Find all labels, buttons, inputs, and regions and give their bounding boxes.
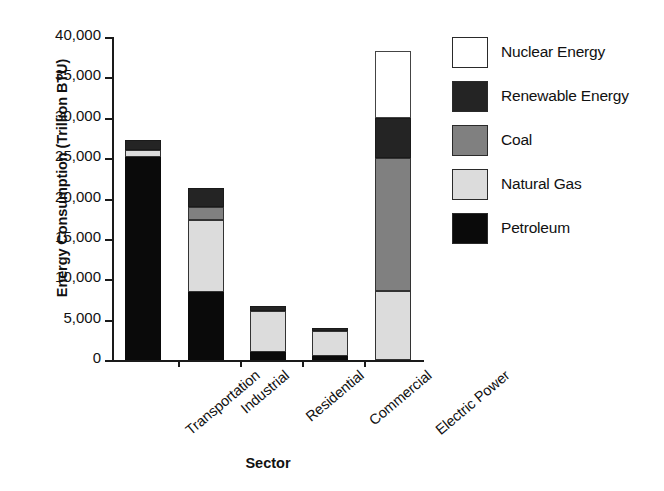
y-tick-label: 40,000 <box>21 26 101 43</box>
bar-residential[interactable] <box>250 37 286 360</box>
x-tick-mark <box>240 360 242 367</box>
bar-segment-petroleum[interactable] <box>250 352 286 360</box>
y-tick-label: 25,000 <box>21 147 101 164</box>
y-tick-mark <box>105 360 112 362</box>
bar-segment-natural-gas[interactable] <box>375 291 411 360</box>
y-tick-label: 0 <box>21 349 101 366</box>
x-axis-line <box>112 360 424 362</box>
bar-segment-natural-gas[interactable] <box>250 311 286 352</box>
bar-industrial[interactable] <box>188 37 224 360</box>
bar-segment-coal[interactable] <box>188 207 224 220</box>
y-tick-label: 30,000 <box>21 107 101 124</box>
bar-segment-petroleum[interactable] <box>188 292 224 360</box>
y-tick-label: 10,000 <box>21 268 101 285</box>
legend-label: Nuclear Energy <box>501 43 605 61</box>
y-tick-label: 5,000 <box>21 309 101 326</box>
y-tick-mark <box>105 279 112 281</box>
bar-segment-renewable-energy[interactable] <box>312 328 348 331</box>
x-label-residential: Residential <box>303 367 367 425</box>
bar-segment-renewable-energy[interactable] <box>375 118 411 158</box>
energy-consumption-chart: Energy Consumption (Trillion BTU) 0 5,00… <box>0 0 664 491</box>
y-tick-label: 35,000 <box>21 66 101 83</box>
bar-segment-natural-gas[interactable] <box>125 150 161 156</box>
bar-segment-natural-gas[interactable] <box>188 220 224 293</box>
legend-label: Coal <box>501 131 532 149</box>
legend-label: Petroleum <box>501 219 570 237</box>
x-label-electric-power: Electric Power <box>432 367 512 438</box>
legend-item-coal[interactable]: Coal <box>452 118 657 162</box>
legend-item-petroleum[interactable]: Petroleum <box>452 206 657 250</box>
x-tick-mark <box>302 360 304 367</box>
bar-segment-petroleum[interactable] <box>312 356 348 360</box>
legend-item-natural-gas[interactable]: Natural Gas <box>452 162 657 206</box>
y-tick-mark <box>105 158 112 160</box>
bar-segment-coal[interactable] <box>375 158 411 291</box>
legend-item-nuclear-energy[interactable]: Nuclear Energy <box>452 30 657 74</box>
legend-label: Natural Gas <box>501 175 582 193</box>
y-tick-mark <box>105 239 112 241</box>
x-tick-mark <box>178 360 180 367</box>
legend-swatch-icon <box>452 125 488 156</box>
bar-commercial[interactable] <box>312 37 348 360</box>
y-tick-label: 20,000 <box>21 188 101 205</box>
x-axis-title: Sector <box>112 455 424 471</box>
bar-segment-petroleum[interactable] <box>125 157 161 360</box>
bar-segment-renewable-energy[interactable] <box>125 140 161 150</box>
y-tick-mark <box>105 37 112 39</box>
x-label-commercial: Commercial <box>366 367 435 428</box>
y-tick-label: 15,000 <box>21 228 101 245</box>
bar-electric-power[interactable] <box>375 37 411 360</box>
bar-segment-natural-gas[interactable] <box>312 331 348 356</box>
legend-swatch-icon <box>452 169 488 200</box>
legend-swatch-icon <box>452 37 488 68</box>
bar-transportation[interactable] <box>125 37 161 360</box>
plot-area: 0 5,000 10,000 15,000 20,000 25,000 30,0… <box>112 37 424 360</box>
bar-segment-renewable-energy[interactable] <box>250 306 286 311</box>
x-tick-mark <box>364 360 366 367</box>
legend-item-renewable-energy[interactable]: Renewable Energy <box>452 74 657 118</box>
y-tick-mark <box>105 320 112 322</box>
legend-swatch-icon <box>452 81 488 112</box>
y-tick-mark <box>105 77 112 79</box>
bar-segment-renewable-energy[interactable] <box>188 188 224 207</box>
y-axis-line <box>112 37 114 360</box>
legend-label: Renewable Energy <box>501 87 629 105</box>
legend-swatch-icon <box>452 213 488 244</box>
bar-segment-nuclear-energy[interactable] <box>375 51 411 118</box>
y-tick-mark <box>105 118 112 120</box>
legend: Nuclear EnergyRenewable EnergyCoalNatura… <box>452 30 657 250</box>
y-tick-mark <box>105 199 112 201</box>
